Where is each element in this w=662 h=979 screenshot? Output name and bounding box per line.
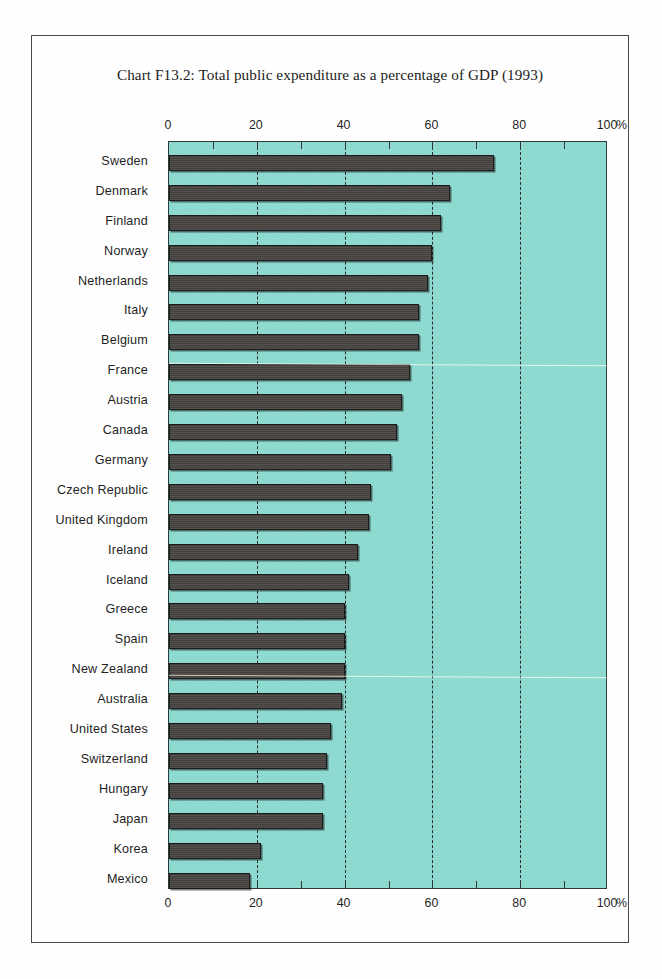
- bar-row: [169, 806, 606, 836]
- category-label-italy: Italy: [124, 296, 148, 326]
- x-tick-label-0: 0: [165, 118, 172, 132]
- bar-germany: [169, 454, 391, 470]
- x-tick-label-100: 100: [597, 896, 618, 910]
- bar-row: [169, 596, 606, 626]
- bar-row: [169, 716, 606, 746]
- bar-ireland: [169, 544, 358, 560]
- bar-iceland: [169, 574, 349, 590]
- bar-series: [169, 142, 606, 888]
- x-axis-unit: %: [616, 896, 627, 910]
- bar-switzerland: [169, 753, 327, 769]
- bar-netherlands: [169, 275, 428, 291]
- category-label-ireland: Ireland: [108, 536, 148, 566]
- bar-canada: [169, 424, 397, 440]
- category-label-france: France: [108, 356, 148, 386]
- category-label-korea: Korea: [113, 835, 148, 865]
- x-tick-label-0: 0: [165, 896, 172, 910]
- bar-row: [169, 746, 606, 776]
- bar-row: [169, 507, 606, 537]
- category-label-iceland: Iceland: [106, 566, 148, 596]
- bar-czech-republic: [169, 484, 371, 500]
- bar-finland: [169, 215, 441, 231]
- bar-italy: [169, 304, 419, 320]
- category-label-canada: Canada: [103, 416, 148, 446]
- x-tick-label-60: 60: [424, 118, 438, 132]
- category-label-sweden: Sweden: [101, 147, 148, 177]
- category-label-japan: Japan: [113, 805, 148, 835]
- x-tick-label-80: 80: [512, 118, 526, 132]
- x-tick-label-20: 20: [249, 118, 263, 132]
- x-tick-label-40: 40: [337, 896, 351, 910]
- bar-row: [169, 656, 606, 686]
- bar-norway: [169, 245, 432, 261]
- category-label-united-kingdom: United Kingdom: [56, 506, 148, 536]
- bar-france: [169, 364, 410, 380]
- bar-row: [169, 537, 606, 567]
- x-tick-label-20: 20: [249, 896, 263, 910]
- bar-row: [169, 268, 606, 298]
- bar-sweden: [169, 155, 494, 171]
- category-label-netherlands: Netherlands: [78, 267, 148, 297]
- bar-row: [169, 626, 606, 656]
- bar-row: [169, 776, 606, 806]
- x-tick-label-60: 60: [424, 896, 438, 910]
- bar-row: [169, 866, 606, 896]
- category-label-switzerland: Switzerland: [81, 745, 148, 775]
- bar-mexico: [169, 873, 250, 889]
- bar-row: [169, 477, 606, 507]
- bar-row: [169, 178, 606, 208]
- bar-row: [169, 238, 606, 268]
- bar-row: [169, 836, 606, 866]
- bar-row: [169, 686, 606, 716]
- bar-denmark: [169, 185, 450, 201]
- bar-new-zealand: [169, 663, 345, 679]
- x-axis-top: 020406080100%: [168, 118, 607, 136]
- bar-united-states: [169, 723, 331, 739]
- bar-austria: [169, 394, 402, 410]
- category-label-hungary: Hungary: [99, 775, 148, 805]
- bar-row: [169, 387, 606, 417]
- x-axis-unit: %: [616, 118, 627, 132]
- category-label-finland: Finland: [105, 207, 148, 237]
- category-label-czech-republic: Czech Republic: [57, 476, 148, 506]
- bar-spain: [169, 633, 345, 649]
- category-label-denmark: Denmark: [96, 177, 149, 207]
- x-tick-label-80: 80: [512, 896, 526, 910]
- bar-row: [169, 297, 606, 327]
- plot-area: [168, 141, 607, 889]
- x-axis-bottom: 020406080100%: [168, 896, 607, 914]
- category-label-australia: Australia: [97, 685, 148, 715]
- category-label-new-zealand: New Zealand: [72, 655, 148, 685]
- category-label-united-states: United States: [70, 715, 148, 745]
- category-label-mexico: Mexico: [107, 865, 148, 895]
- bar-row: [169, 327, 606, 357]
- x-tick-label-100: 100: [597, 118, 618, 132]
- bar-australia: [169, 693, 342, 709]
- bar-row: [169, 417, 606, 447]
- bar-korea: [169, 843, 261, 859]
- bar-united-kingdom: [169, 514, 369, 530]
- bar-greece: [169, 603, 345, 619]
- category-axis-labels: SwedenDenmarkFinlandNorwayNetherlandsIta…: [0, 141, 160, 889]
- category-label-belgium: Belgium: [101, 326, 148, 356]
- bar-japan: [169, 813, 323, 829]
- bar-belgium: [169, 334, 419, 350]
- x-tick-label-40: 40: [337, 118, 351, 132]
- bar-hungary: [169, 783, 323, 799]
- chart-title: Chart F13.2: Total public expenditure as…: [31, 66, 629, 84]
- category-label-austria: Austria: [107, 386, 148, 416]
- category-label-germany: Germany: [95, 446, 148, 476]
- category-label-spain: Spain: [115, 625, 148, 655]
- chart-page: Chart F13.2: Total public expenditure as…: [0, 0, 662, 979]
- bar-row: [169, 447, 606, 477]
- bar-row: [169, 357, 606, 387]
- bar-row: [169, 208, 606, 238]
- bar-row: [169, 148, 606, 178]
- category-label-norway: Norway: [104, 237, 148, 267]
- bar-row: [169, 567, 606, 597]
- category-label-greece: Greece: [106, 595, 149, 625]
